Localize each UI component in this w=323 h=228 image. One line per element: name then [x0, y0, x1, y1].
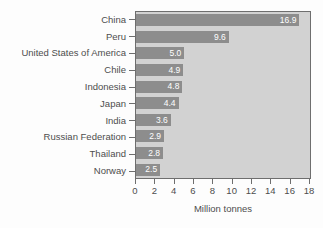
value-axis-tick [212, 179, 213, 184]
bar-row: 4.4 [136, 95, 310, 112]
plot-area: 16.9 9.6 5.0 4.9 4.8 [135, 11, 311, 179]
value-axis-tick [290, 179, 291, 184]
value-axis-tick [270, 179, 271, 184]
bar-value-label: 4.8 [168, 82, 180, 91]
category-label: Indonesia [0, 78, 131, 95]
bar-value-label: 2.5 [145, 165, 157, 174]
value-axis-tick-label: 8 [210, 185, 215, 196]
bar-row: 2.8 [136, 145, 310, 162]
category-label: India [0, 112, 131, 129]
value-axis-tick [174, 179, 175, 184]
bar-value-label: 16.9 [280, 16, 297, 25]
value-axis-tick-label: 16 [284, 185, 295, 196]
bar-row: 2.5 [136, 161, 310, 178]
bar: 16.9 [136, 14, 299, 26]
bar-row: 4.9 [136, 62, 310, 79]
category-label: Japan [0, 95, 131, 112]
bar: 4.9 [136, 64, 183, 76]
bar-value-label: 4.4 [164, 99, 176, 108]
bar: 5.0 [136, 47, 184, 59]
value-axis-tick [135, 179, 136, 184]
bar: 9.6 [136, 31, 229, 43]
category-label: Peru [0, 28, 131, 45]
value-axis-tick-label: 14 [265, 185, 276, 196]
bar-value-label: 2.9 [149, 132, 161, 141]
bar-value-label: 2.8 [148, 149, 160, 158]
category-label: United States of America [0, 45, 131, 62]
value-axis-tick-label: 10 [226, 185, 237, 196]
value-axis-tick [309, 179, 310, 184]
bar-row: 2.9 [136, 128, 310, 145]
value-axis-tick-label: 4 [171, 185, 176, 196]
bar-value-label: 3.6 [156, 116, 168, 125]
x-axis-title: Million tonnes [135, 203, 311, 214]
category-label: Norway [0, 162, 131, 179]
category-label: China [0, 11, 131, 28]
bar: 2.8 [136, 147, 163, 159]
bar: 4.8 [136, 81, 182, 93]
bar: 4.4 [136, 97, 179, 109]
bar-row: 5.0 [136, 45, 310, 62]
bar-value-label: 9.6 [214, 33, 226, 42]
value-axis-tick-label: 12 [246, 185, 257, 196]
value-axis-tick [251, 179, 252, 184]
bar-row: 3.6 [136, 112, 310, 129]
value-axis-tick-label: 2 [152, 185, 157, 196]
value-axis-tick [193, 179, 194, 184]
bar-row: 4.8 [136, 78, 310, 95]
bar: 2.5 [136, 164, 160, 176]
value-axis: 024681012141618 [135, 179, 311, 199]
bar-value-label: 5.0 [170, 49, 182, 58]
bar: 2.9 [136, 130, 164, 142]
value-axis-tick [232, 179, 233, 184]
bar-chart: China Peru United States of America Chil… [0, 0, 323, 228]
value-axis-tick-label: 0 [132, 185, 137, 196]
bars-layer: 16.9 9.6 5.0 4.9 4.8 [136, 12, 310, 178]
bar-row: 16.9 [136, 12, 310, 29]
value-axis-tick-label: 6 [190, 185, 195, 196]
bar: 3.6 [136, 114, 171, 126]
bar-row: 9.6 [136, 29, 310, 46]
category-label: Thailand [0, 145, 131, 162]
value-axis-tick-label: 18 [304, 185, 315, 196]
category-label: Chile [0, 61, 131, 78]
category-label: Russian Federation [0, 129, 131, 146]
value-axis-tick [154, 179, 155, 184]
bar-value-label: 4.9 [169, 66, 181, 75]
category-axis: China Peru United States of America Chil… [0, 11, 131, 179]
